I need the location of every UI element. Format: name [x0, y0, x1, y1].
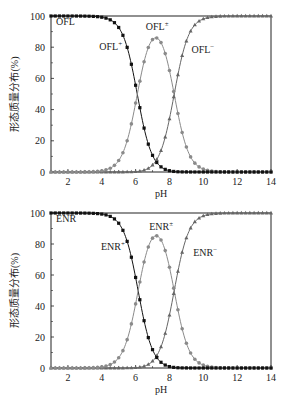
y-tick-label: 0	[40, 167, 45, 178]
square-marker	[193, 366, 196, 369]
circle-marker	[168, 265, 172, 269]
square-marker	[168, 365, 171, 368]
square-marker	[240, 170, 243, 173]
x-tick-label: 10	[198, 372, 208, 383]
triangle-marker	[184, 236, 188, 240]
square-marker	[261, 170, 264, 173]
square-marker	[138, 298, 141, 301]
square-marker	[206, 366, 209, 369]
y-tick-label: 40	[35, 104, 45, 115]
square-marker	[197, 366, 200, 369]
circle-marker	[66, 170, 70, 174]
circle-marker	[83, 366, 87, 370]
square-marker	[126, 240, 129, 243]
circle-marker	[159, 238, 163, 242]
square-marker	[265, 170, 268, 173]
circle-marker	[142, 60, 146, 64]
circle-marker	[202, 363, 206, 367]
x-tick-label: 2	[65, 372, 70, 383]
square-marker	[151, 154, 154, 157]
square-marker	[83, 212, 86, 215]
circle-marker	[125, 338, 129, 342]
species-label: OFL±	[146, 20, 169, 32]
square-marker	[142, 319, 145, 322]
circle-marker	[108, 166, 112, 170]
panel-label: OFL	[56, 16, 75, 27]
y-tick-label: 80	[35, 42, 45, 53]
speciation-charts: 0204060801002468101214pH形态质量分布(%)OFLOFL+…	[0, 0, 288, 410]
circle-marker	[185, 341, 189, 345]
square-marker	[121, 34, 124, 37]
x-tick-label: 14	[266, 176, 276, 187]
circle-marker	[151, 38, 155, 42]
circle-marker	[49, 170, 53, 174]
square-marker	[104, 213, 107, 216]
square-marker	[96, 212, 99, 215]
circle-marker	[202, 167, 206, 171]
square-marker	[104, 17, 107, 20]
square-marker	[142, 127, 145, 130]
triangle-marker	[176, 73, 180, 77]
circle-marker	[197, 361, 201, 365]
circle-marker	[58, 170, 62, 174]
species-label: ENR+	[101, 240, 125, 252]
circle-marker	[87, 366, 91, 370]
square-marker	[257, 366, 260, 369]
square-marker	[117, 26, 120, 29]
square-marker	[231, 170, 234, 173]
square-marker	[164, 363, 167, 366]
y-tick-label: 60	[35, 73, 45, 84]
square-marker	[176, 170, 179, 173]
x-tick-label: 4	[99, 176, 104, 187]
square-marker	[202, 170, 205, 173]
zwitterion-curve	[51, 236, 271, 368]
square-marker	[147, 336, 150, 339]
square-marker	[269, 366, 272, 369]
circle-marker	[121, 349, 125, 353]
circle-marker	[53, 366, 57, 370]
x-tick-label: 14	[266, 372, 276, 383]
circle-marker	[62, 170, 66, 174]
square-marker	[151, 348, 154, 351]
species-label: ENR−	[193, 246, 217, 258]
circle-marker	[113, 360, 117, 364]
square-marker	[240, 366, 243, 369]
circle-marker	[189, 351, 193, 355]
circle-marker	[138, 79, 142, 83]
square-marker	[113, 217, 116, 220]
ofl-speciation-panel: 0204060801002468101214pH形态质量分布(%)OFLOFL+…	[8, 11, 276, 200]
circle-marker	[96, 170, 100, 174]
square-marker	[134, 84, 137, 87]
circle-marker	[172, 286, 176, 290]
square-marker	[130, 63, 133, 66]
circle-marker	[100, 169, 104, 173]
circle-marker	[58, 366, 62, 370]
square-marker	[193, 170, 196, 173]
square-marker	[219, 170, 222, 173]
x-tick-label: 8	[167, 372, 172, 383]
circle-marker	[108, 363, 112, 367]
square-marker	[185, 366, 188, 369]
y-tick-label: 100	[30, 11, 45, 22]
square-marker	[126, 46, 129, 49]
circle-marker	[100, 365, 104, 369]
square-marker	[227, 366, 230, 369]
circle-marker	[197, 165, 201, 169]
square-marker	[100, 16, 103, 19]
square-marker	[100, 212, 103, 215]
circle-marker	[104, 168, 108, 172]
circle-marker	[189, 155, 193, 159]
square-marker	[181, 170, 184, 173]
circle-marker	[92, 170, 96, 174]
square-marker	[248, 170, 251, 173]
enr-speciation-panel: 0204060801002468101214pH形态质量分布(%)ENRENR+…	[8, 208, 276, 396]
circle-marker	[96, 366, 100, 370]
y-tick-label: 40	[35, 301, 45, 312]
square-marker	[164, 168, 167, 171]
square-marker	[49, 211, 52, 214]
circle-marker	[138, 280, 142, 284]
square-marker	[265, 366, 268, 369]
triangle-marker	[159, 148, 163, 152]
circle-marker	[75, 170, 79, 174]
x-tick-label: 12	[232, 176, 242, 187]
